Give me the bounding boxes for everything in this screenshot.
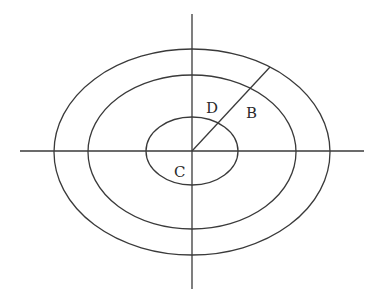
label-b: B (246, 104, 257, 122)
radial-line (192, 67, 270, 151)
concentric-ellipse-diagram: D B C (0, 0, 376, 299)
label-d: D (206, 99, 218, 117)
label-c: C (174, 163, 185, 181)
